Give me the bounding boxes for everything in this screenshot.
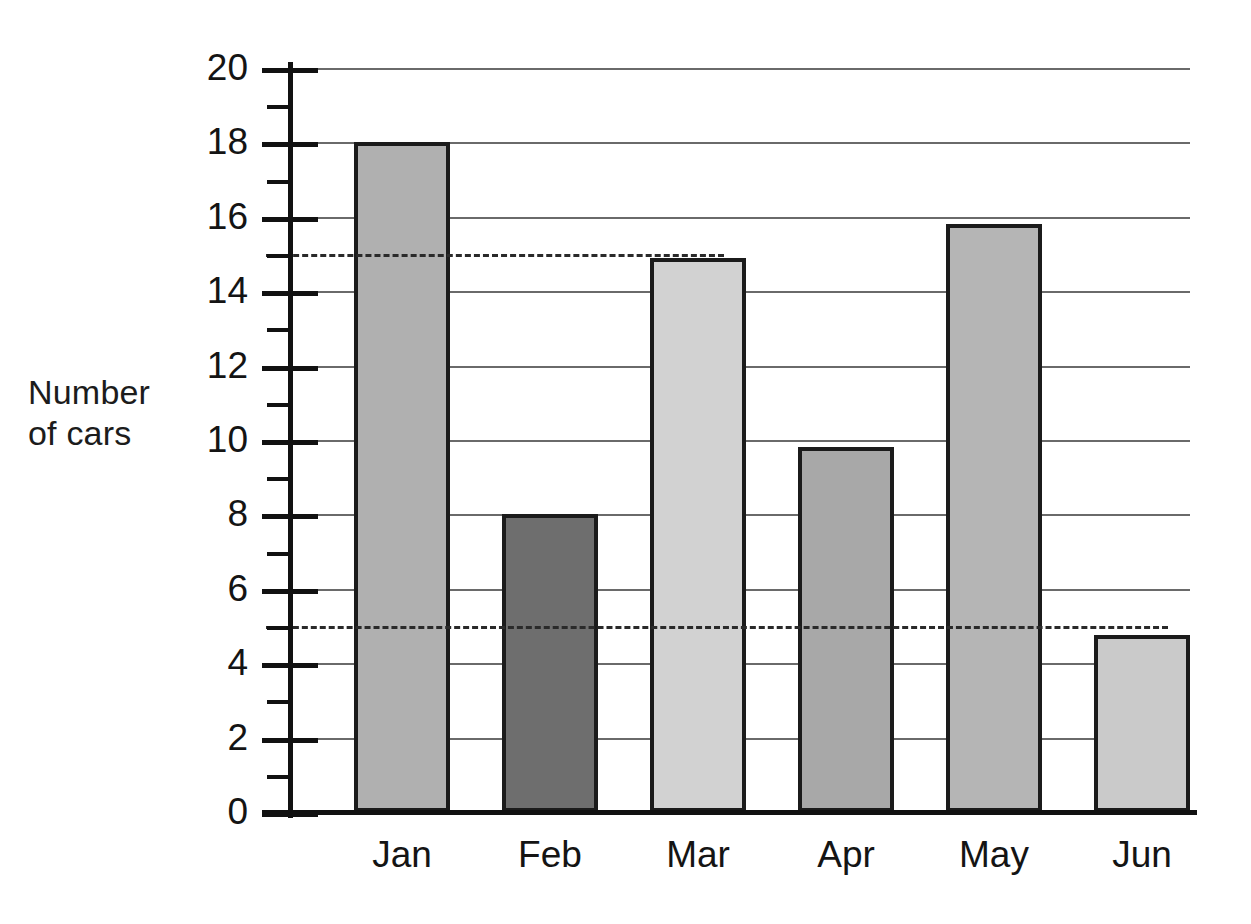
- y-tick-label: 4: [128, 644, 248, 681]
- bar-jun: [1094, 635, 1190, 812]
- bar-may: [946, 224, 1042, 812]
- y-tick-major: [262, 366, 318, 371]
- bar-apr: [798, 447, 894, 812]
- y-tick-label: 10: [128, 421, 248, 458]
- x-tick-label-apr: Apr: [776, 836, 916, 873]
- y-tick-label: 16: [128, 198, 248, 235]
- x-tick-label-may: May: [924, 836, 1064, 873]
- y-tick-major: [262, 440, 318, 445]
- plot-area: [288, 68, 1190, 812]
- x-tick-label-feb: Feb: [480, 836, 620, 873]
- y-tick-minor: [267, 775, 289, 779]
- y-tick-minor: [267, 328, 289, 332]
- reference-line-y15: [266, 254, 724, 257]
- x-tick-label-jan: Jan: [332, 836, 472, 873]
- gridline: [288, 68, 1190, 70]
- y-tick-major: [262, 514, 318, 519]
- x-tick-label-jun: Jun: [1072, 836, 1212, 873]
- y-tick-major: [262, 738, 318, 743]
- y-tick-minor: [267, 626, 289, 630]
- y-tick-major: [262, 291, 318, 296]
- y-tick-minor: [267, 180, 289, 184]
- y-tick-major: [262, 663, 318, 668]
- y-tick-minor: [267, 105, 289, 109]
- bar-jan: [354, 142, 450, 812]
- y-tick-major: [262, 142, 318, 147]
- y-tick-label: 0: [128, 793, 248, 830]
- y-tick-label: 18: [128, 123, 248, 160]
- y-tick-minor: [267, 403, 289, 407]
- y-tick-major: [262, 812, 318, 817]
- y-tick-label: 6: [128, 570, 248, 607]
- y-tick-label: 8: [128, 495, 248, 532]
- y-tick-major: [262, 589, 318, 594]
- y-tick-label: 2: [128, 719, 248, 756]
- x-tick-label-mar: Mar: [628, 836, 768, 873]
- y-tick-label: 20: [128, 49, 248, 86]
- y-tick-minor: [267, 700, 289, 704]
- y-tick-minor: [267, 254, 289, 258]
- y-tick-minor: [267, 477, 289, 481]
- bar-chart: Number of cars 02468101214161820 JanFebM…: [0, 0, 1251, 924]
- bar-feb: [502, 514, 598, 812]
- y-tick-major: [262, 217, 318, 222]
- y-tick-label: 12: [128, 347, 248, 384]
- y-tick-label: 14: [128, 272, 248, 309]
- y-tick-major: [262, 68, 318, 73]
- bar-mar: [650, 258, 746, 812]
- x-axis-line: [262, 810, 1197, 815]
- reference-line-y5: [266, 626, 1168, 629]
- y-tick-minor: [267, 552, 289, 556]
